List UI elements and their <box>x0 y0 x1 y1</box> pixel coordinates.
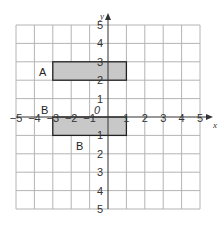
x-tick: −5 <box>10 112 23 124</box>
x-axis-label: x <box>212 120 217 130</box>
x-axis-arrow-icon <box>206 114 213 120</box>
y-tick: 3 <box>97 56 103 68</box>
y-tick: 2 <box>97 148 103 160</box>
y-tick: 2 <box>97 74 103 86</box>
y-tick: 1 <box>97 93 103 105</box>
shape-b-label-top: B <box>41 104 48 116</box>
y-tick: 3 <box>97 166 103 178</box>
y-tick: 5 <box>97 203 103 215</box>
coordinate-grid-diagram: x y 0 −5 −4 −3 −2 −1 1 2 3 4 5 5 4 3 2 1… <box>0 0 219 226</box>
shape-b-label-bottom: B <box>76 140 83 152</box>
x-tick: −1 <box>83 112 96 124</box>
y-tick: 5 <box>97 19 103 31</box>
y-tick: 4 <box>97 37 103 49</box>
x-tick: −2 <box>65 112 78 124</box>
x-tick: 3 <box>160 112 166 124</box>
x-tick: 2 <box>142 112 148 124</box>
shape-a-label: A <box>39 66 47 78</box>
x-tick: 4 <box>179 112 185 124</box>
y-tick: 1 <box>97 129 103 141</box>
x-tick: 1 <box>123 112 129 124</box>
y-axis-arrow-icon <box>105 13 111 20</box>
rectangle-a <box>53 62 127 80</box>
y-tick: 4 <box>97 185 103 197</box>
x-tick: 5 <box>197 112 203 124</box>
x-tick: −3 <box>47 112 60 124</box>
x-tick: −4 <box>28 112 41 124</box>
grid-canvas: x y 0 −5 −4 −3 −2 −1 1 2 3 4 5 5 4 3 2 1… <box>0 0 219 226</box>
